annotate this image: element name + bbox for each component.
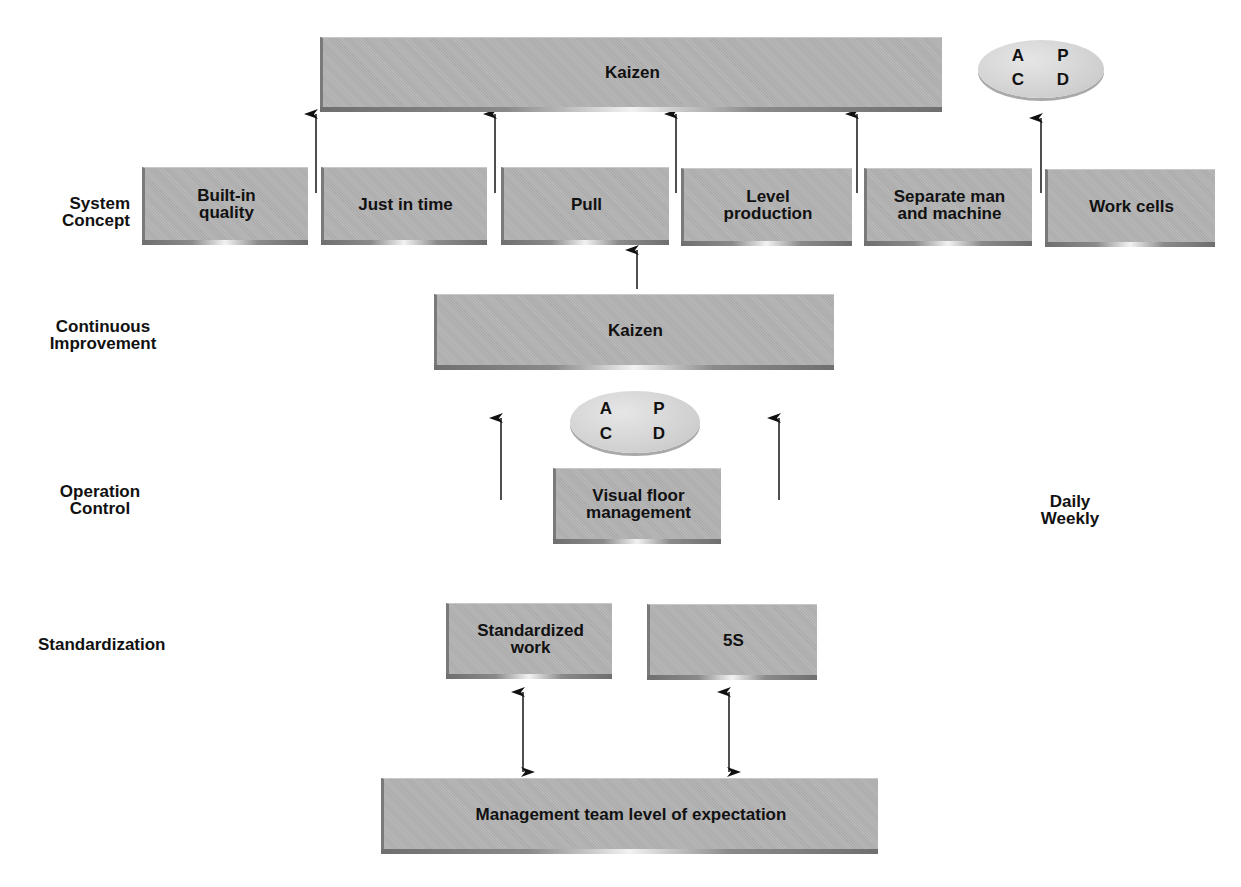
top-pdca-cycle: A P C D — [978, 40, 1104, 98]
concept-just-in-time: Just in time — [321, 167, 487, 240]
management-expectation-box: Management team level of expectation — [381, 778, 878, 849]
level-operation-control: Operation Control — [45, 483, 155, 517]
concept-pull: Pull — [501, 167, 669, 240]
pdca-check: C — [596, 424, 616, 444]
pdca-plan: P — [649, 399, 669, 419]
concept-separate-man-machine: Separate man and machine — [864, 168, 1032, 241]
top-kaizen-box: Kaizen — [320, 37, 942, 107]
top-kaizen-label: Kaizen — [605, 64, 660, 81]
pdca-check: C — [1008, 70, 1028, 90]
pdca-act: A — [1008, 46, 1028, 66]
frequency-label: Daily Weekly — [1030, 493, 1110, 527]
level-system-concept: System Concept — [42, 195, 130, 229]
pdca-do: D — [649, 424, 669, 444]
5s-box: 5S — [647, 604, 817, 675]
standardized-work-box: Standardized work — [446, 603, 612, 674]
visual-floor-management-box: Visual floor management — [553, 468, 721, 539]
level-continuous-improvement: Continuous Improvement — [28, 318, 178, 352]
concept-work-cells: Work cells — [1045, 169, 1215, 242]
concept-built-in-quality: Built-in quality — [142, 167, 308, 240]
pdca-plan: P — [1053, 46, 1073, 66]
concept-level-production: Level production — [681, 168, 852, 241]
pdca-do: D — [1053, 70, 1073, 90]
pdca-act: A — [596, 399, 616, 419]
mid-pdca-cycle: A P C D — [570, 391, 700, 453]
mid-kaizen-box: Kaizen — [434, 294, 834, 365]
level-standardization: Standardization — [38, 636, 166, 653]
